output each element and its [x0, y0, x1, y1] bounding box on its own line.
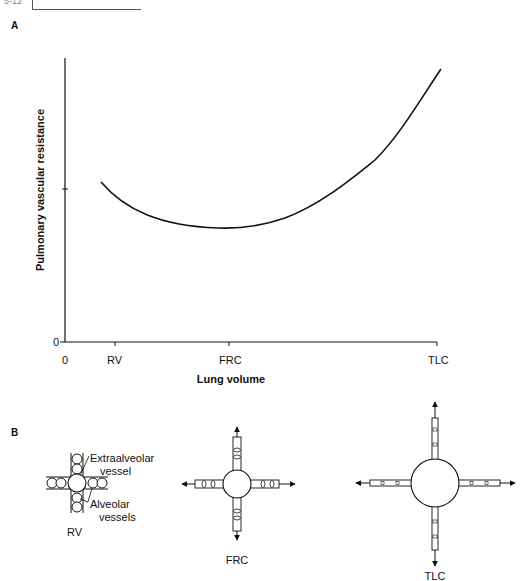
rv-diagram-label: RV [67, 526, 83, 538]
resistance-curve [101, 69, 441, 228]
x-tick-label-tlc: TLC [428, 354, 449, 366]
callout-alveolar-2: vessels [99, 511, 136, 523]
x-tick-label-rv: RV [107, 354, 123, 366]
tlc-diagram [356, 402, 515, 566]
x-tick-label-frc: FRC [219, 354, 242, 366]
frc-diagram-label: FRC [226, 554, 249, 566]
callout-alveolar-1: Alveolar [90, 498, 130, 510]
y-axis-title: Pulmonary vascular resistance [34, 109, 46, 271]
callout-extraalveolar-2: vessel [100, 465, 131, 477]
x-axis-title: Lung volume [197, 373, 265, 385]
frc-diagram [182, 427, 295, 540]
x-tick-label-0: 0 [62, 354, 68, 366]
chart-axes [60, 58, 437, 346]
tlc-diagram-label: TLC [425, 570, 446, 581]
callout-extraalveolar-1: Extraalveolar [90, 452, 155, 464]
y-tick-label-0: 0 [53, 336, 59, 348]
figure-canvas: 0 0 RV FRC TLC Lung volume Pulmonary vas… [0, 0, 530, 581]
